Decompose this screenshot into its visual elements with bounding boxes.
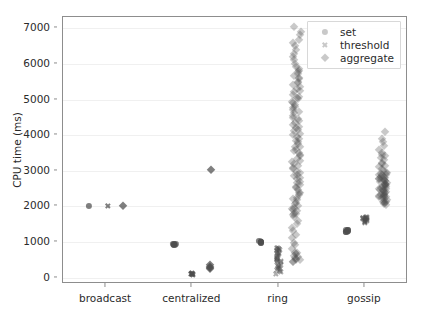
y-tick-mark bbox=[54, 27, 58, 28]
legend-marker-circle-icon bbox=[312, 25, 338, 38]
grid-line bbox=[63, 206, 406, 207]
x-tick-mark bbox=[363, 283, 364, 287]
marker-circle-icon bbox=[322, 28, 328, 34]
legend-marker-x-icon bbox=[312, 38, 338, 51]
legend-item-threshold: threshold bbox=[312, 38, 394, 51]
x-axis-tick-labels: broadcastcentralizedringgossip bbox=[62, 283, 407, 316]
marker-diamond-icon bbox=[207, 165, 216, 174]
marker-circle-icon bbox=[86, 202, 92, 208]
y-tick-label: 4000 bbox=[23, 128, 50, 140]
x-tick-label: ring bbox=[267, 292, 288, 304]
legend-label-threshold: threshold bbox=[340, 39, 389, 51]
marker-circle-icon bbox=[258, 239, 264, 245]
y-axis-tick-labels: 01000200030004000500060007000 bbox=[0, 16, 57, 283]
y-tick-mark bbox=[54, 205, 58, 206]
grid-line bbox=[63, 278, 406, 279]
legend-label-set: set bbox=[340, 26, 356, 38]
grid-line bbox=[63, 242, 406, 243]
plot-area: set threshold aggregate bbox=[62, 16, 407, 283]
y-tick-label: 0 bbox=[43, 271, 50, 283]
x-tick-label: gossip bbox=[347, 292, 381, 304]
grid-line bbox=[63, 100, 406, 101]
marker-x-icon bbox=[322, 41, 328, 47]
x-tick-label: centralized bbox=[162, 292, 220, 304]
grid-line bbox=[63, 135, 406, 136]
marker-x-icon bbox=[190, 272, 196, 278]
legend-label-aggregate: aggregate bbox=[340, 52, 394, 64]
marker-diamond-icon bbox=[119, 201, 128, 210]
marker-x-icon bbox=[104, 203, 110, 209]
legend-marker-diamond-icon bbox=[312, 51, 338, 64]
marker-x-icon bbox=[362, 214, 368, 220]
y-tick-mark bbox=[54, 169, 58, 170]
marker-diamond-icon bbox=[321, 53, 330, 62]
marker-x-icon bbox=[276, 245, 282, 251]
y-tick-label: 7000 bbox=[23, 21, 50, 33]
y-tick-label: 5000 bbox=[23, 93, 50, 105]
y-tick-label: 6000 bbox=[23, 57, 50, 69]
y-tick-mark bbox=[54, 62, 58, 63]
y-tick-mark bbox=[54, 134, 58, 135]
x-tick-mark bbox=[277, 283, 278, 287]
y-tick-label: 3000 bbox=[23, 164, 50, 176]
legend-item-aggregate: aggregate bbox=[312, 51, 394, 64]
legend: set threshold aggregate bbox=[307, 21, 401, 69]
x-tick-label: broadcast bbox=[79, 292, 131, 304]
x-tick-mark bbox=[191, 283, 192, 287]
y-tick-mark bbox=[54, 98, 58, 99]
chart-figure: CPU time (ms) 01000200030004000500060007… bbox=[0, 0, 421, 316]
y-tick-label: 1000 bbox=[23, 235, 50, 247]
y-tick-mark bbox=[54, 240, 58, 241]
legend-item-set: set bbox=[312, 25, 394, 38]
grid-line bbox=[63, 171, 406, 172]
y-tick-label: 2000 bbox=[23, 199, 50, 211]
x-tick-mark bbox=[105, 283, 106, 287]
y-tick-mark bbox=[54, 276, 58, 277]
